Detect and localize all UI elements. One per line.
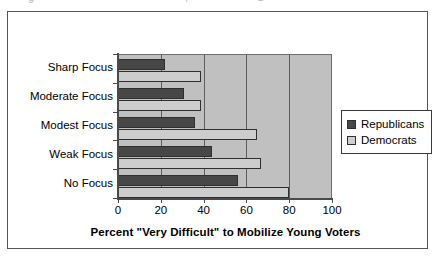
x-tick-label-100: 100 xyxy=(312,204,352,216)
legend-swatch-icon-democrats xyxy=(347,136,356,145)
y-tick-5 xyxy=(113,198,118,199)
x-tick-label-80: 80 xyxy=(269,204,309,216)
x-tick-40 xyxy=(204,198,205,203)
y-axis-label-modest-focus: Modest Focus xyxy=(8,119,113,131)
y-tick-2 xyxy=(113,112,118,113)
clipped-glyph-3: z xyxy=(258,0,264,3)
x-tick-20 xyxy=(161,198,162,203)
y-axis-label-weak-focus: Weak Focus xyxy=(8,148,113,160)
chart-legend: Republicans Democrats xyxy=(341,110,432,154)
x-tick-label-20: 20 xyxy=(141,204,181,216)
bar-republicans-no-focus xyxy=(118,175,238,186)
x-tick-label-0: 0 xyxy=(98,204,138,216)
x-tick-0 xyxy=(118,198,119,203)
x-axis-title: Percent "Very Difficult" to Mobilize You… xyxy=(8,226,435,238)
legend-label-republicans: Republicans xyxy=(361,118,424,130)
bar-republicans-modest-focus xyxy=(118,117,195,128)
bar-republicans-moderate-focus xyxy=(118,88,184,99)
clipped-glyph-1: g xyxy=(28,0,34,3)
y-axis-label-no-focus: No Focus xyxy=(8,177,113,189)
x-tick-label-40: 40 xyxy=(184,204,224,216)
bar-democrats-sharp-focus xyxy=(118,71,201,82)
y-axis-label-sharp-focus: Sharp Focus xyxy=(8,61,113,73)
bar-republicans-weak-focus xyxy=(118,146,212,157)
x-tick-100 xyxy=(332,198,333,203)
legend-swatch-icon-republicans xyxy=(347,120,356,129)
legend-label-democrats: Democrats xyxy=(361,134,417,146)
gridline-60 xyxy=(246,55,247,199)
clipped-glyph-2: , xyxy=(185,0,188,3)
y-tick-1 xyxy=(113,83,118,84)
bar-democrats-moderate-focus xyxy=(118,100,201,111)
plot-area xyxy=(118,54,332,198)
y-tick-0 xyxy=(113,54,118,55)
chart-frame: Sharp FocusModerate FocusModest FocusWea… xyxy=(7,11,428,249)
x-tick-80 xyxy=(289,198,290,203)
bar-republicans-sharp-focus xyxy=(118,59,165,70)
y-tick-4 xyxy=(113,169,118,170)
x-axis-line xyxy=(117,198,333,200)
figure-root: g , z Sharp FocusModerate FocusModest Fo… xyxy=(0,0,435,264)
x-tick-label-60: 60 xyxy=(226,204,266,216)
clipped-text-sliver: g , z xyxy=(0,0,435,7)
legend-item-republicans: Republicans xyxy=(347,116,424,132)
bar-democrats-modest-focus xyxy=(118,129,257,140)
y-axis-line xyxy=(117,53,119,200)
bar-democrats-weak-focus xyxy=(118,158,261,169)
y-tick-3 xyxy=(113,140,118,141)
y-axis-label-moderate-focus: Moderate Focus xyxy=(8,90,113,102)
gridline-80 xyxy=(289,55,290,199)
legend-item-democrats: Democrats xyxy=(347,132,424,148)
bar-democrats-no-focus xyxy=(118,187,289,198)
x-tick-60 xyxy=(246,198,247,203)
